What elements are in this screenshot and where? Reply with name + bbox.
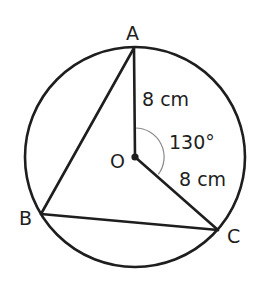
label-point-a: A — [126, 22, 139, 44]
label-radius-oc: 8 cm — [179, 168, 226, 190]
chord-ab — [41, 48, 134, 214]
label-angle-aoc: 130° — [169, 131, 215, 153]
radius-oa — [134, 48, 135, 157]
label-point-b: B — [19, 207, 32, 229]
angle-arc-aoc — [135, 128, 164, 174]
label-point-o: O — [110, 150, 125, 172]
label-point-c: C — [227, 225, 240, 247]
label-radius-oa: 8 cm — [142, 88, 189, 110]
circle-diagram: A B C O 8 cm 130° 8 cm — [0, 0, 260, 283]
chord-bc — [41, 214, 218, 230]
center-point-o — [131, 153, 138, 160]
